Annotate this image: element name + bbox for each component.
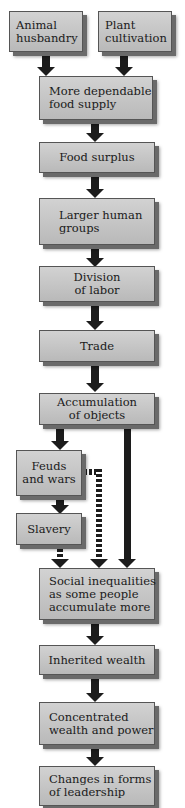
node-plant-cultivation: Plant cultivation (98, 11, 172, 52)
node-text: of leadership (49, 786, 125, 799)
node-text: Plant (105, 19, 135, 32)
node-inherited-wealth: Inherited wealth (39, 645, 155, 675)
node-animal-husbandry: Animal husbandry (9, 11, 83, 52)
node-text: groups (59, 222, 99, 235)
node-concentrated-wealth-and-power: Concentrated wealth and power (39, 702, 155, 745)
node-text: of objects (69, 409, 125, 422)
node-feuds-and-wars: Feuds and wars (16, 450, 82, 496)
node-text: Larger human (59, 209, 142, 222)
node-text: Animal (16, 19, 57, 32)
node-changes-in-forms-of-leadership: Changes in forms of leadership (39, 766, 155, 806)
node-text: Food surplus (59, 151, 134, 164)
node-text: Inherited wealth (49, 654, 146, 667)
node-text: cultivation (105, 32, 167, 45)
node-slavery: Slavery (16, 513, 82, 545)
node-text: Trade (80, 340, 114, 353)
node-accumulation-of-objects: Accumulation of objects (39, 393, 155, 425)
node-text: as some people (49, 588, 139, 601)
node-text: wealth and power (49, 724, 154, 737)
node-larger-human-groups: Larger human groups (39, 198, 155, 245)
node-text: Social inequalities (49, 575, 156, 588)
node-text: and wars (22, 473, 75, 486)
node-text: accumulate more (49, 601, 150, 614)
node-text: of labor (74, 284, 119, 297)
node-more-dependable-food-supply: More dependable food supply (39, 76, 153, 120)
node-division-of-labor: Division of labor (39, 266, 155, 302)
node-text: food supply (49, 98, 116, 111)
node-social-inequalities: Social inequalities as some people accum… (39, 568, 155, 620)
node-text: Concentrated (49, 711, 129, 724)
node-food-surplus: Food surplus (39, 142, 155, 173)
node-text: Slavery (27, 523, 71, 536)
node-trade: Trade (39, 330, 155, 362)
node-text: husbandry (16, 32, 78, 45)
